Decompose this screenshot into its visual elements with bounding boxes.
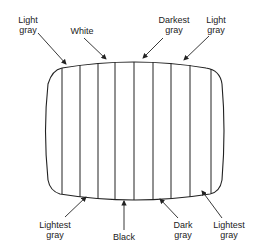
arrow-white <box>84 38 106 59</box>
arrow-lightest-gray-right <box>202 191 222 218</box>
screen-diagram <box>0 0 255 251</box>
label-light-gray-top-left: Light gray <box>8 15 48 35</box>
stripe-lines <box>62 62 211 200</box>
label-lightest-gray-bottom-right: Lightest gray <box>206 220 252 240</box>
label-lightest-gray-bottom-left: Lightest gray <box>33 220 77 240</box>
screen-outline <box>46 62 225 200</box>
arrow-lightest-gray-left <box>65 197 86 217</box>
arrow-darkest-gray <box>143 38 163 58</box>
label-darkest-gray: Darkest gray <box>152 15 196 35</box>
label-white: White <box>62 26 102 36</box>
arrow-dark-gray <box>160 199 178 218</box>
label-dark-gray: Dark gray <box>163 220 203 240</box>
arrow-light-gray-right <box>184 36 209 60</box>
label-light-gray-top-right: Light gray <box>196 15 236 35</box>
label-black: Black <box>104 232 144 242</box>
arrow-light-gray-left <box>38 33 66 64</box>
